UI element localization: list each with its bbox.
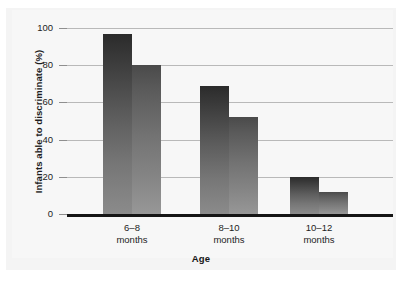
- chart-figure: Infants able to discriminate (%) 0204060…: [0, 0, 402, 286]
- plot-area: 0204060801006–8months8–10months10–12mont…: [67, 28, 393, 214]
- y-axis-tick: [59, 28, 67, 29]
- bar: [229, 117, 258, 214]
- bar-group: [200, 28, 258, 214]
- x-axis-line: [67, 214, 393, 217]
- y-axis-tick-label: 20: [13, 172, 53, 182]
- y-axis-tick-label: 100: [13, 23, 53, 33]
- bar: [200, 86, 229, 214]
- y-axis-tick: [59, 177, 67, 178]
- bar: [319, 192, 348, 214]
- y-axis-tick-label: 80: [13, 60, 53, 70]
- x-label-unit: months: [189, 234, 269, 246]
- bar-group: [290, 28, 348, 214]
- y-axis-tick: [59, 65, 67, 66]
- y-axis-tick-label: 0: [13, 209, 53, 219]
- x-label-range: 6–8: [124, 222, 140, 233]
- y-axis-tick: [59, 214, 67, 215]
- x-label-range: 8–10: [218, 222, 239, 233]
- y-axis-tick: [59, 102, 67, 103]
- bar: [132, 65, 161, 214]
- y-axis-tick: [59, 140, 67, 141]
- x-axis-category-label: 6–8months: [92, 222, 172, 245]
- y-axis-tick-label: 40: [13, 135, 53, 145]
- bar: [103, 34, 132, 214]
- x-label-unit: months: [92, 234, 172, 246]
- bar: [290, 177, 319, 214]
- x-axis-category-label: 10–12months: [279, 222, 359, 245]
- x-axis-category-label: 8–10months: [189, 222, 269, 245]
- bar-group: [103, 28, 161, 214]
- x-label-unit: months: [279, 234, 359, 246]
- x-axis-title: Age: [0, 253, 402, 264]
- x-label-range: 10–12: [306, 222, 332, 233]
- y-axis-title: Infants able to discriminate (%): [33, 22, 44, 222]
- y-axis-tick-label: 60: [13, 97, 53, 107]
